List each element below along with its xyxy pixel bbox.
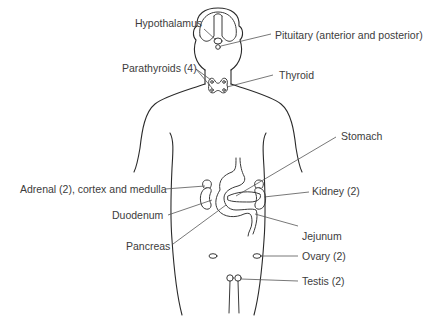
label-pituitary: Pituitary (anterior and posterior) (275, 30, 423, 41)
endocrine-diagram: Hypothalamus Pituitary (anterior and pos… (0, 0, 433, 333)
label-parathyroids: Parathyroids (4) (122, 63, 197, 74)
label-ovary: Ovary (2) (302, 251, 346, 262)
label-thyroid: Thyroid (279, 70, 314, 81)
label-duodenum: Duodenum (112, 210, 163, 221)
body-outline-figure (0, 0, 433, 333)
label-testis: Testis (2) (302, 276, 345, 287)
digestive-organs (216, 158, 261, 236)
label-jejunum: Jejunum (302, 231, 342, 242)
label-stomach: Stomach (341, 131, 382, 142)
gonads (209, 254, 261, 313)
label-adrenal: Adrenal (2), cortex and medulla (20, 184, 167, 195)
label-pancreas: Pancreas (126, 241, 170, 252)
label-kidney: Kidney (2) (312, 186, 360, 197)
thyroid-gland (208, 78, 227, 93)
label-hypothalamus: Hypothalamus (135, 18, 202, 29)
